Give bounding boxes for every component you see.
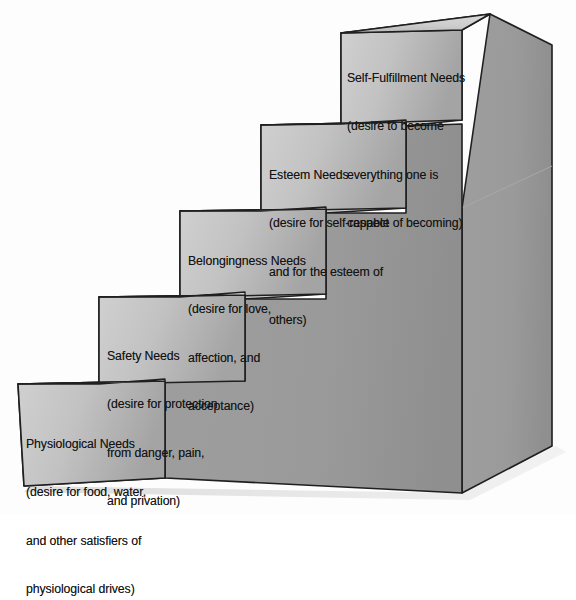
step-desc-line: physiological drives)	[26, 581, 146, 597]
step-title-self-fulfillment: Self-Fulfillment Needs	[347, 70, 465, 86]
step-desc-line: and for the esteem of	[269, 264, 389, 280]
step-desc-line: acceptance)	[188, 398, 306, 414]
step-desc-line: from danger, pain,	[107, 445, 218, 461]
step-desc-line: capable of becoming)	[347, 215, 465, 231]
step-desc-line: (desire to become	[347, 118, 465, 134]
step-desc-line: others)	[269, 312, 389, 328]
step-desc-line: and privation)	[107, 493, 218, 509]
step-label-self-fulfillment: Self-Fulfillment Needs (desire to become…	[347, 38, 465, 263]
step-desc-line: everything one is	[347, 167, 465, 183]
